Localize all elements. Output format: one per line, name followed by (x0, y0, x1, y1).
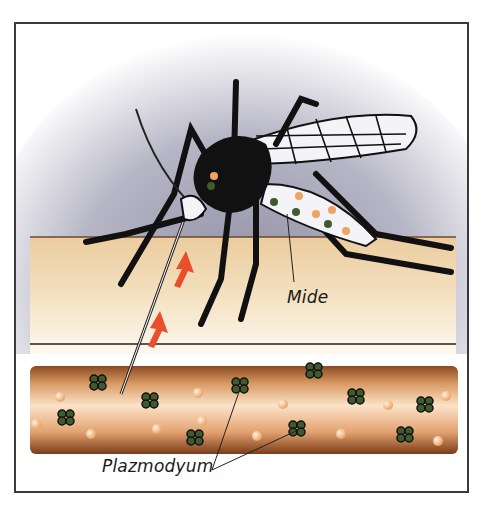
mosquito-illustration (16, 24, 469, 493)
diagram-frame: Mide Plazmodyum (14, 22, 469, 493)
skin-layer (30, 237, 456, 354)
plasmodium-label: Plazmodyum (102, 456, 213, 476)
saliva-label: Mide (287, 287, 328, 307)
